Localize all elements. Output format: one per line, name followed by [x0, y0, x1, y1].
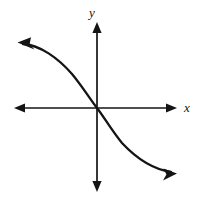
- graph-svg: y x: [0, 0, 202, 205]
- y-axis-top-arrowhead-icon: [92, 22, 101, 33]
- y-axis-label: y: [87, 5, 95, 20]
- curve-left-arrowhead-icon: [18, 37, 35, 49]
- coordinate-plane-figure: y x: [0, 0, 202, 205]
- x-axis-right-arrowhead-icon: [166, 103, 177, 112]
- x-axis-label: x: [183, 100, 190, 115]
- curve-right-arrowhead-icon: [163, 169, 177, 181]
- x-axis-left-arrowhead-icon: [14, 103, 25, 112]
- y-axis-bottom-arrowhead-icon: [92, 181, 101, 192]
